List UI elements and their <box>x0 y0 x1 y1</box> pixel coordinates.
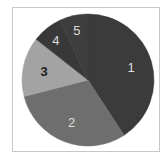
pie-label-5: 5 <box>73 23 80 38</box>
pie-chart: 12345 <box>0 0 167 160</box>
pie-label-4: 4 <box>52 33 59 48</box>
pie-label-2: 2 <box>68 115 75 130</box>
pie-label-1: 1 <box>127 60 134 75</box>
pie-label-3: 3 <box>40 64 47 79</box>
